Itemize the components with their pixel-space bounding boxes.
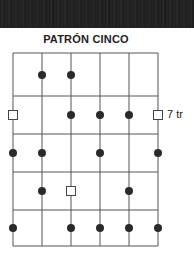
fretboard-diagram: [0, 0, 194, 259]
note-dot: [9, 149, 17, 157]
fret-position-label: 7 tr: [167, 108, 183, 120]
note-dot: [9, 224, 17, 232]
note-dot: [96, 224, 104, 232]
root-note-square: [67, 187, 76, 196]
note-dot: [154, 149, 162, 157]
note-dot: [38, 71, 46, 79]
note-dot: [154, 224, 162, 232]
note-dot: [96, 149, 104, 157]
note-dot: [96, 111, 104, 119]
note-dot: [38, 187, 46, 195]
note-dot: [67, 224, 75, 232]
note-dot: [67, 71, 75, 79]
note-dot: [67, 111, 75, 119]
note-dot: [38, 149, 46, 157]
note-dot: [125, 224, 133, 232]
note-dot: [125, 111, 133, 119]
root-note-square: [154, 111, 163, 120]
root-note-square: [9, 111, 18, 120]
note-dot: [125, 187, 133, 195]
